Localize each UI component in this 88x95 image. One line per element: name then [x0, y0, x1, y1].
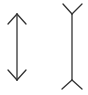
figure-inward-arrows — [8, 14, 26, 80]
diagram-canvas — [0, 0, 88, 95]
fin-line — [72, 4, 82, 14]
fin-line — [17, 70, 26, 80]
fin-line — [17, 14, 26, 24]
muller-lyer-diagram — [0, 0, 88, 95]
fin-line — [72, 80, 82, 89]
fin-line — [63, 4, 72, 14]
figure-outward-fins — [62, 4, 82, 89]
fin-line — [8, 70, 17, 80]
fin-line — [8, 14, 17, 24]
fin-line — [62, 80, 72, 89]
